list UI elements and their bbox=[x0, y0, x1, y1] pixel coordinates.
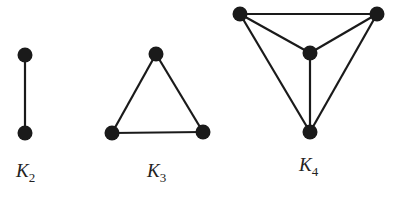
edge bbox=[112, 132, 203, 133]
vertex bbox=[105, 126, 120, 141]
vertex bbox=[18, 48, 33, 63]
graph-k2 bbox=[18, 48, 33, 141]
edge bbox=[240, 14, 310, 132]
label-k4: K4 bbox=[299, 154, 318, 180]
edge bbox=[310, 14, 377, 132]
label-k2: K2 bbox=[16, 160, 35, 186]
vertex bbox=[233, 7, 248, 22]
vertex bbox=[303, 125, 318, 140]
edge bbox=[156, 54, 203, 132]
edge bbox=[112, 54, 156, 133]
vertex bbox=[149, 47, 164, 62]
vertex bbox=[370, 7, 385, 22]
graph-k4 bbox=[233, 7, 385, 140]
complete-graphs-diagram bbox=[0, 0, 395, 211]
label-k3: K3 bbox=[147, 160, 166, 186]
vertex bbox=[196, 125, 211, 140]
vertex bbox=[18, 126, 33, 141]
vertex bbox=[303, 46, 318, 61]
graph-k3 bbox=[105, 47, 211, 141]
